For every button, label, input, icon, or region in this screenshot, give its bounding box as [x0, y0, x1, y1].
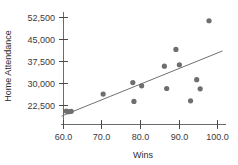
data-point	[173, 47, 178, 52]
x-tick-label-80: 80.0	[132, 132, 150, 142]
y-tick-label-45000: 45,000	[27, 35, 55, 45]
scatter-plot: 52,500 45,000 37,500 30,000 22,500 60.0 …	[0, 0, 238, 165]
x-tick-label-60: 60.0	[55, 132, 73, 142]
data-point	[162, 64, 167, 69]
data-points-group	[64, 18, 212, 114]
chart-screenshot: 52,500 45,000 37,500 30,000 22,500 60.0 …	[0, 0, 238, 165]
data-point	[177, 62, 182, 67]
y-tick-label-37500: 37,500	[27, 57, 55, 67]
x-tick-label-90: 90.0	[171, 132, 189, 142]
data-point	[206, 18, 211, 23]
y-tick-label-30000: 30,000	[27, 79, 55, 89]
data-point	[69, 109, 74, 114]
y-tick-label-22500: 22,500	[27, 101, 55, 111]
x-tick-label-70: 70.0	[93, 132, 111, 142]
x-axis-title: Wins	[133, 150, 153, 160]
data-point	[164, 86, 169, 91]
data-point	[188, 98, 193, 103]
y-axis-title: Home Attendance	[3, 30, 13, 102]
data-point	[139, 83, 144, 88]
x-tick-label-100: 100.0	[206, 132, 229, 142]
data-point	[101, 91, 106, 96]
data-point	[130, 80, 135, 85]
data-point	[131, 99, 136, 104]
y-tick-label-52500: 52,500	[27, 13, 55, 23]
data-point	[198, 86, 203, 91]
data-point	[194, 77, 199, 82]
